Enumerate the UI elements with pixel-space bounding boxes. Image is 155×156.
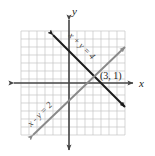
- graph-figure: y x x + y = 4 x - y = 2 (3, 1): [0, 0, 155, 156]
- intersection-point-label: (3, 1): [100, 70, 122, 82]
- x-axis-label: x: [138, 77, 144, 89]
- coordinate-plane-svg: y x x + y = 4 x - y = 2 (3, 1): [0, 0, 155, 156]
- y-axis-label: y: [71, 5, 77, 17]
